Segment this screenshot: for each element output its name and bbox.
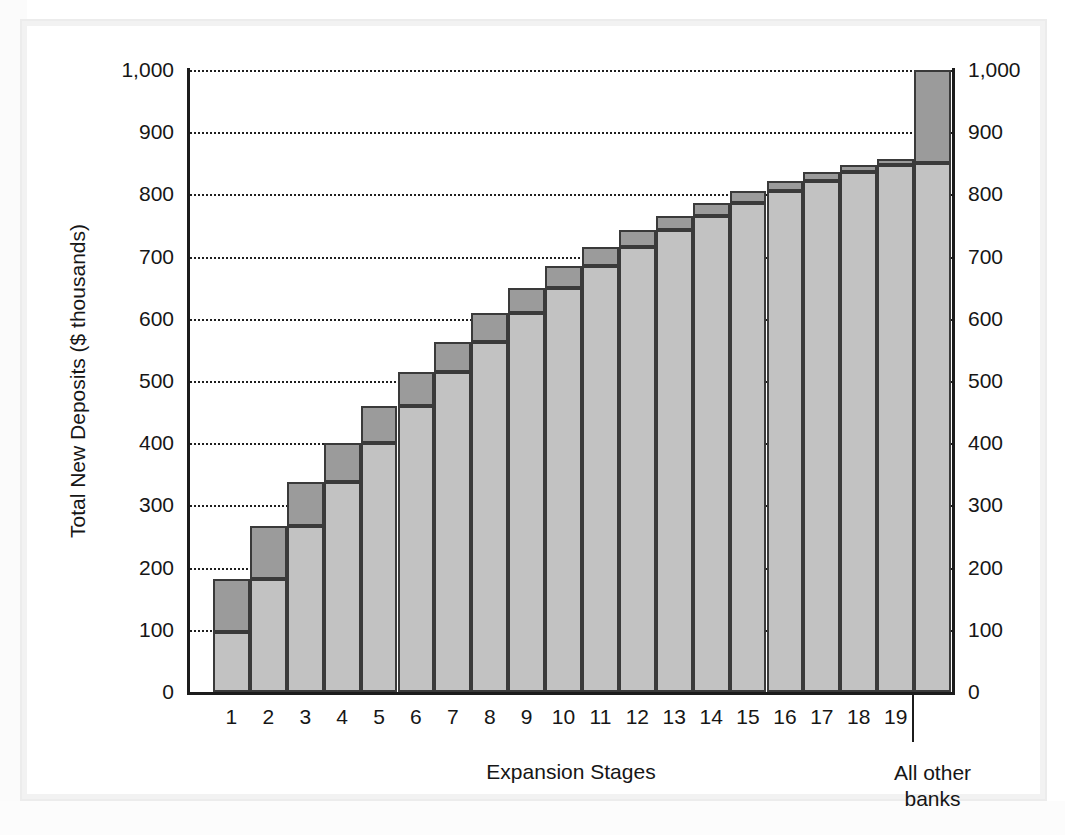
bar-10[interactable] bbox=[545, 266, 582, 692]
bar-segment-increment bbox=[693, 203, 730, 216]
x-tick-label-17: 17 bbox=[803, 706, 840, 727]
bar-segment-increment bbox=[213, 579, 250, 632]
bar-segment-increment bbox=[287, 482, 324, 526]
bar-segment-base bbox=[693, 216, 730, 692]
bar-2[interactable] bbox=[250, 526, 287, 692]
bar-1[interactable] bbox=[213, 579, 250, 692]
gridline bbox=[190, 70, 952, 72]
bar-17[interactable] bbox=[803, 172, 840, 692]
bar-6[interactable] bbox=[398, 372, 435, 692]
y-tick-label-right: 800 bbox=[968, 183, 1003, 204]
scan-edge-left bbox=[0, 0, 27, 835]
bar-segment-base bbox=[250, 579, 287, 692]
bar-segment-increment bbox=[582, 247, 619, 266]
x-tick-label-2: 2 bbox=[250, 706, 287, 727]
y-tick-label-right: 200 bbox=[968, 557, 1003, 578]
bar-segment-base bbox=[803, 181, 840, 692]
y-tick-label-right: 900 bbox=[968, 121, 1003, 142]
bar-20[interactable] bbox=[914, 70, 951, 692]
y-tick-label-left: 200 bbox=[139, 557, 174, 578]
x-tick-label-7: 7 bbox=[434, 706, 471, 727]
bar-segment-increment bbox=[361, 406, 398, 443]
y-tick-label-left: 100 bbox=[139, 619, 174, 640]
x-tick-label-12: 12 bbox=[619, 706, 656, 727]
bar-19[interactable] bbox=[877, 159, 914, 692]
plot-area: 01002003004005006007008009001,000 010020… bbox=[190, 70, 952, 692]
y-tick-label-right: 0 bbox=[968, 681, 980, 702]
y-tick-label-left: 600 bbox=[139, 308, 174, 329]
bar-segment-increment bbox=[250, 526, 287, 579]
x-tick-label-5: 5 bbox=[361, 706, 398, 727]
x-tick-label-4: 4 bbox=[324, 706, 361, 727]
bar-segment-base bbox=[324, 482, 361, 692]
gridline bbox=[190, 132, 952, 134]
y-tick-label-left: 300 bbox=[139, 494, 174, 515]
bar-segment-increment bbox=[767, 181, 804, 191]
y-tick-label-right: 600 bbox=[968, 308, 1003, 329]
bar-segment-increment bbox=[398, 372, 435, 406]
chart-figure: Total New Deposits ($ thousands) 0100200… bbox=[0, 0, 1065, 835]
bar-13[interactable] bbox=[656, 216, 693, 692]
y-tick-label-right: 100 bbox=[968, 619, 1003, 640]
bar-18[interactable] bbox=[840, 165, 877, 692]
x-axis-line bbox=[187, 692, 955, 695]
x-tick-label-16: 16 bbox=[767, 706, 804, 727]
bar-12[interactable] bbox=[619, 230, 656, 692]
bar-14[interactable] bbox=[693, 203, 730, 693]
x-tick-label-3: 3 bbox=[287, 706, 324, 727]
y-tick-label-left: 500 bbox=[139, 370, 174, 391]
x-tick-label-14: 14 bbox=[693, 706, 730, 727]
y-tick-label-right: 400 bbox=[968, 432, 1003, 453]
bar-segment-base bbox=[545, 288, 582, 692]
bar-11[interactable] bbox=[582, 247, 619, 692]
bar-7[interactable] bbox=[434, 342, 471, 692]
bar-segment-base bbox=[582, 266, 619, 692]
bar-segment-increment bbox=[803, 172, 840, 181]
bar-segment-base bbox=[840, 172, 877, 692]
y-axis-right-line bbox=[952, 68, 955, 694]
bar-segment-increment bbox=[914, 70, 951, 163]
bar-segment-base bbox=[398, 406, 435, 692]
bar-5[interactable] bbox=[361, 406, 398, 692]
bar-segment-base bbox=[619, 247, 656, 692]
bar-3[interactable] bbox=[287, 482, 324, 692]
bar-segment-base bbox=[287, 526, 324, 692]
y-tick-label-left: 800 bbox=[139, 183, 174, 204]
x-tick-label-13: 13 bbox=[656, 706, 693, 727]
bar-segment-increment bbox=[545, 266, 582, 288]
bar-4[interactable] bbox=[324, 443, 361, 692]
bar-segment-increment bbox=[508, 288, 545, 314]
bar-segment-increment bbox=[730, 191, 767, 203]
bar-8[interactable] bbox=[471, 313, 508, 692]
bar-segment-increment bbox=[434, 342, 471, 372]
y-tick-label-left: 900 bbox=[139, 121, 174, 142]
x-tick-label-11: 11 bbox=[582, 706, 619, 727]
bar-segment-base bbox=[767, 191, 804, 692]
bar-9[interactable] bbox=[508, 288, 545, 692]
x-tick-label-10: 10 bbox=[545, 706, 582, 727]
bar-16[interactable] bbox=[767, 181, 804, 692]
y-tick-label-right: 300 bbox=[968, 494, 1003, 515]
x-tick-label-6: 6 bbox=[398, 706, 435, 727]
x-tick-label-15: 15 bbox=[730, 706, 767, 727]
y-tick-label-left: 400 bbox=[139, 432, 174, 453]
bar-segment-base bbox=[213, 632, 250, 692]
bar-segment-base bbox=[877, 165, 914, 692]
y-tick-label-right: 700 bbox=[968, 246, 1003, 267]
bar-segment-increment bbox=[840, 165, 877, 172]
bar-segment-increment bbox=[324, 443, 361, 482]
bar-segment-increment bbox=[656, 216, 693, 231]
x-tick-label-1: 1 bbox=[213, 706, 250, 727]
bar-15[interactable] bbox=[730, 191, 767, 692]
bar-segment-base bbox=[914, 163, 951, 692]
x-tick-label-18: 18 bbox=[840, 706, 877, 727]
y-axis-title: Total New Deposits ($ thousands) bbox=[66, 70, 92, 692]
bar-segment-base bbox=[471, 342, 508, 692]
x-tick-label-8: 8 bbox=[471, 706, 508, 727]
bar-segment-base bbox=[656, 230, 693, 692]
bar-segment-base bbox=[361, 443, 398, 692]
x-tick-label-19: 19 bbox=[877, 706, 914, 727]
y-tick-label-left: 700 bbox=[139, 246, 174, 267]
bar-segment-base bbox=[730, 203, 767, 693]
x-tick-label-9: 9 bbox=[508, 706, 545, 727]
